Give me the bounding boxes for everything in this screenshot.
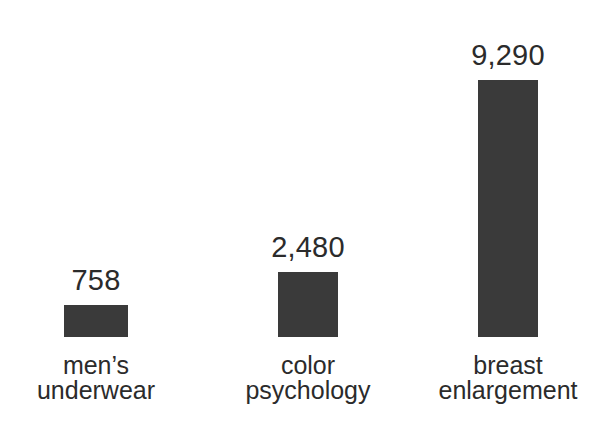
plot-area: 758 men’s underwear 2,480 color psycholo… bbox=[0, 0, 612, 429]
category-label-2-line2: enlargement bbox=[378, 378, 612, 403]
bar-value-label-2: 9,290 bbox=[408, 41, 608, 70]
category-label-2: breast enlargement bbox=[378, 353, 612, 403]
bar-0 bbox=[64, 305, 128, 337]
bar-group-1: 2,480 color psychology bbox=[278, 272, 338, 337]
bar-1 bbox=[278, 272, 338, 337]
bar-value-label-1: 2,480 bbox=[208, 233, 408, 262]
bar-group-0: 758 men’s underwear bbox=[64, 305, 128, 337]
bar-chart: 758 men’s underwear 2,480 color psycholo… bbox=[0, 0, 612, 429]
bar-group-2: 9,290 breast enlargement bbox=[478, 80, 538, 337]
bar-2 bbox=[478, 80, 538, 337]
bar-value-label-0: 758 bbox=[0, 266, 196, 295]
category-label-2-line1: breast bbox=[378, 353, 612, 378]
